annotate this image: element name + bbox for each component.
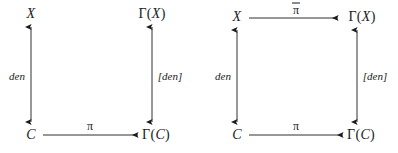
node-gamma-C-bottom-right: Γ(C)	[347, 128, 375, 142]
node-X-top-left: X	[233, 10, 242, 24]
gamma-close: )	[161, 6, 166, 21]
gamma-close: )	[370, 127, 375, 142]
gamma-open: Γ(	[138, 6, 151, 21]
label-den-right: den	[215, 71, 231, 82]
gamma-arg: C	[155, 127, 165, 142]
label-pi-bottom-right: π	[293, 120, 299, 132]
node-gamma-X-top-right: Γ(X)	[348, 10, 375, 24]
gamma-arg: X	[362, 9, 371, 24]
gamma-close: )	[165, 127, 170, 142]
label-den-bracket-left: [den]	[158, 71, 182, 82]
node-gamma-X-top-right: Γ(X)	[138, 7, 165, 21]
commutative-diagram-left: X Γ(X) C Γ(C) den [den] π	[0, 0, 199, 153]
gamma-open: Γ(	[347, 127, 360, 142]
commutative-diagram-right: X Γ(X) C Γ(C) π den [den] π	[199, 0, 398, 153]
pi-overline: π	[293, 3, 299, 16]
gamma-open: Γ(	[348, 9, 361, 24]
label-den-bracket-right: [den]	[363, 71, 387, 82]
node-C-bottom-left: C	[232, 128, 242, 142]
node-C-bottom-left: C	[26, 128, 36, 142]
label-pi-bar-top-right: π	[293, 3, 299, 16]
gamma-arg: C	[360, 127, 370, 142]
gamma-open: Γ(	[142, 127, 155, 142]
node-X-top-left: X	[27, 7, 36, 21]
node-gamma-C-bottom-right: Γ(C)	[142, 128, 170, 142]
label-pi-bottom-left: π	[87, 120, 93, 132]
gamma-arg: X	[152, 6, 161, 21]
gamma-close: )	[371, 9, 376, 24]
label-den-left: den	[9, 71, 25, 82]
figure-canvas: X Γ(X) C Γ(C) den [den] π	[0, 0, 398, 153]
